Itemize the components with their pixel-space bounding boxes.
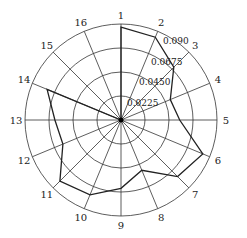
axis-label: 9	[118, 220, 124, 231]
axis-label: 13	[10, 115, 23, 126]
ring-label: 0.0225	[127, 98, 159, 108]
axis-label: 10	[74, 212, 87, 223]
ring-label: 0.0450	[139, 77, 171, 87]
grid-spoke	[121, 120, 189, 188]
axis-label: 11	[40, 189, 53, 200]
ring-labels: 0.02250.04500.06750.090	[127, 36, 189, 108]
ring-label: 0.0675	[151, 57, 183, 67]
axis-label: 2	[158, 17, 164, 28]
axis-label: 4	[215, 74, 221, 85]
axis-label: 14	[18, 74, 31, 85]
grid-spoke	[53, 52, 121, 120]
axis-label: 15	[40, 40, 53, 51]
axis-label: 1	[118, 10, 124, 21]
ring-label: 0.090	[163, 36, 189, 46]
grid-spoke	[53, 120, 121, 188]
center-dot	[119, 118, 124, 123]
axis-label: 3	[192, 40, 198, 51]
axis-label: 5	[223, 115, 229, 126]
radar-chart: 12345678910111213141516 0.02250.04500.06…	[0, 0, 247, 238]
axis-label: 16	[74, 17, 87, 28]
axis-label: 6	[215, 155, 221, 166]
axis-label: 7	[192, 189, 198, 200]
axis-label: 8	[158, 212, 164, 223]
axis-label: 12	[18, 155, 31, 166]
